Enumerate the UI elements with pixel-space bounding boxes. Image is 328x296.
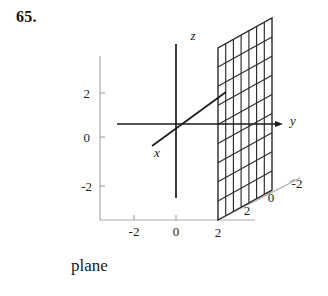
tick-label-y-2: 2 <box>244 203 251 218</box>
plane-grid <box>218 18 272 220</box>
tick-label-x-2: 2 <box>215 225 222 240</box>
figure-page: 65. <box>0 0 328 296</box>
y-axis-arrowhead <box>275 121 283 127</box>
y-axis-label: y <box>288 113 296 128</box>
tick-label-y-neg2: -2 <box>292 176 303 191</box>
tick-label-x-0: 0 <box>173 224 180 239</box>
tick-label-z-neg2: -2 <box>81 179 92 194</box>
figure-caption: plane <box>71 256 108 276</box>
tick-label-z-2: 2 <box>84 86 91 101</box>
tick-label-y-0: 0 <box>268 190 275 205</box>
z-axis-label: z <box>189 28 195 43</box>
tick-label-z-0: 0 <box>84 130 91 145</box>
x-axis-label: x <box>153 145 160 160</box>
coordinate-figure: z y x 2 0 -2 -2 0 2 2 0 -2 <box>0 0 328 296</box>
tick-label-x-neg2: -2 <box>129 224 140 239</box>
x-axis-line <box>152 92 226 146</box>
